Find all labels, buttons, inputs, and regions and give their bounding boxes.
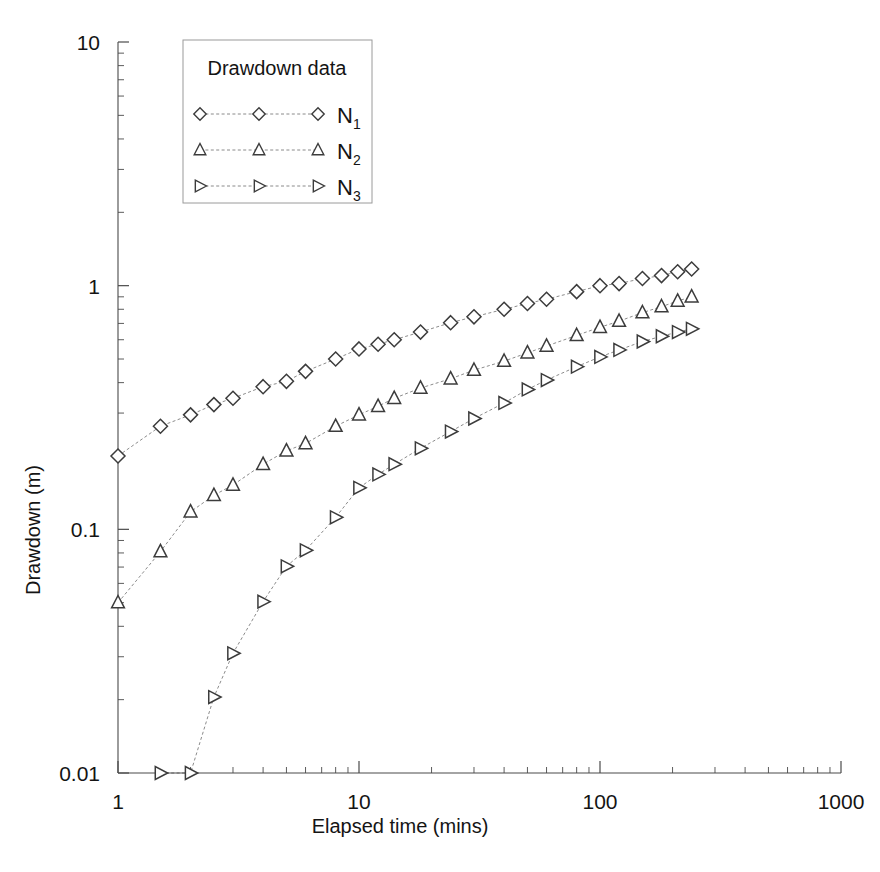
data-point — [388, 391, 401, 403]
legend-label-subscript: 1 — [353, 116, 361, 132]
data-point — [353, 408, 366, 420]
data-point — [330, 511, 342, 524]
y-axis-ticks — [118, 42, 129, 773]
data-point — [371, 337, 385, 351]
data-point — [228, 647, 240, 660]
data-point — [686, 322, 698, 335]
data-point — [520, 296, 534, 310]
data-point — [570, 328, 583, 340]
legend-label-subscript: 2 — [353, 152, 361, 168]
series-line — [118, 297, 692, 603]
data-point — [593, 279, 607, 293]
data-point — [467, 310, 481, 324]
data-point — [329, 352, 343, 366]
data-point — [540, 292, 554, 306]
data-point — [153, 419, 167, 433]
data-point — [373, 468, 385, 481]
data-point — [540, 339, 553, 351]
data-point — [372, 399, 385, 411]
data-point — [155, 767, 167, 780]
data-point — [279, 374, 293, 388]
data-point — [258, 595, 270, 608]
data-point — [329, 419, 342, 431]
y-axis-title: Drawdown (m) — [22, 465, 44, 595]
data-point — [300, 544, 312, 557]
series-n3 — [155, 322, 699, 779]
data-point — [445, 425, 457, 438]
data-point — [685, 262, 699, 276]
data-point — [635, 272, 649, 286]
data-point — [444, 316, 458, 330]
data-point — [299, 364, 313, 378]
data-point — [614, 343, 626, 356]
data-point — [257, 457, 270, 469]
y-tick-label: 0.01 — [59, 762, 100, 785]
series-n2 — [112, 290, 698, 608]
y-tick-label: 1 — [88, 275, 100, 298]
data-point — [354, 481, 366, 494]
drawdown-log-log-chart: 0.010.1110 1101001000 Drawdown (m) Elaps… — [0, 0, 880, 872]
x-tick-label: 1 — [112, 790, 124, 813]
data-point — [387, 333, 401, 347]
data-point — [521, 346, 534, 358]
x-axis-ticks — [118, 761, 841, 773]
chart-figure: 0.010.1110 1101001000 Drawdown (m) Elaps… — [0, 0, 880, 872]
data-point — [497, 302, 511, 316]
data-point — [226, 391, 240, 405]
x-axis-title: Elapsed time (mins) — [312, 815, 489, 837]
data-point — [414, 381, 427, 393]
data-point — [655, 299, 668, 311]
data-point — [256, 380, 270, 394]
data-point — [208, 488, 221, 500]
legend-title: Drawdown data — [208, 57, 348, 79]
data-point — [209, 691, 221, 704]
y-tick-label: 0.1 — [71, 518, 100, 541]
data-point — [498, 354, 511, 366]
data-point — [352, 342, 366, 356]
data-point — [499, 397, 511, 410]
data-point — [594, 320, 607, 332]
data-point — [671, 265, 685, 279]
series-n1 — [111, 262, 699, 463]
data-point — [280, 444, 293, 456]
data-point — [672, 326, 684, 339]
chart-legend: Drawdown data N1N2N3 — [183, 40, 372, 204]
series-line — [118, 269, 692, 456]
data-point — [655, 269, 669, 283]
data-point — [685, 290, 698, 302]
data-series-layer — [111, 262, 699, 779]
data-point — [389, 458, 401, 471]
data-point — [111, 449, 125, 463]
data-point — [595, 351, 607, 364]
y-axis-tick-labels: 0.010.1110 — [59, 31, 100, 785]
data-point — [541, 374, 553, 387]
data-point — [444, 372, 457, 384]
data-point — [570, 285, 584, 299]
data-point — [415, 442, 427, 455]
data-point — [571, 360, 583, 373]
data-point — [613, 314, 626, 326]
data-point — [522, 383, 534, 396]
data-point — [299, 436, 312, 448]
data-point — [469, 412, 481, 425]
data-point — [227, 478, 240, 490]
data-point — [184, 505, 197, 517]
data-point — [637, 335, 649, 348]
data-point — [612, 277, 626, 291]
data-point — [414, 325, 428, 339]
data-point — [184, 408, 198, 422]
legend-label-subscript: 3 — [353, 188, 361, 204]
y-tick-label: 10 — [77, 31, 100, 54]
x-axis-tick-labels: 1101001000 — [112, 790, 864, 813]
x-tick-label: 10 — [347, 790, 370, 813]
x-tick-label: 100 — [582, 790, 617, 813]
data-point — [656, 330, 668, 343]
x-tick-label: 1000 — [818, 790, 865, 813]
data-point — [207, 398, 221, 412]
data-point — [154, 544, 167, 556]
